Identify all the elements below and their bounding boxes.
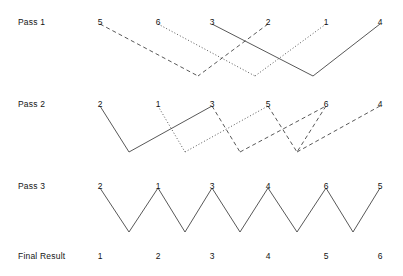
pass-3-value-5: 5: [373, 181, 387, 191]
pass-2-value-1: 1: [151, 99, 165, 109]
pass-1-value-5: 4: [373, 17, 387, 27]
pass-2-value-2: 3: [205, 99, 219, 109]
pass-2-seg-5-to-v4: [268, 106, 297, 152]
pass-2-seg-v4-to-4: [297, 106, 380, 152]
pass-1-seg-6-down: [158, 24, 255, 76]
diagram-canvas: Pass 1563214Pass 2213564Pass 3213465Fina…: [0, 0, 403, 276]
pass-2-seg-v2-to-5: [185, 106, 268, 152]
pass-1-seg-4-down: [313, 24, 380, 76]
pass-1-value-1: 6: [151, 17, 165, 27]
pass-3-seg-c-down: [212, 188, 240, 232]
pass-3-seg-c-up: [240, 188, 268, 232]
pass-3-value-3: 4: [261, 181, 275, 191]
pass-1-value-2: 3: [205, 17, 219, 27]
pass-1-seg-1-down: [255, 24, 326, 76]
row-label-pass-1: Pass 1: [18, 17, 45, 27]
final-result-value-2: 3: [205, 251, 219, 261]
row-label-pass-3: Pass 3: [18, 181, 45, 191]
pass-3-seg-a-down: [100, 188, 129, 232]
pass-1-value-3: 2: [261, 17, 275, 27]
final-result-value-4: 5: [319, 251, 333, 261]
pass-2-seg-6-to-v4b: [297, 106, 326, 152]
pass-2-seg-v1-to-3: [129, 106, 212, 152]
pass-2-value-4: 6: [319, 99, 333, 109]
pass-3-seg-e-up: [353, 188, 380, 232]
pass-2-value-0: 2: [93, 99, 107, 109]
pass-2-seg-3-to-v3: [212, 106, 240, 152]
wire-layer: [0, 0, 403, 276]
final-result-value-5: 6: [373, 251, 387, 261]
pass-1-seg-3-down: [212, 24, 313, 76]
pass-2-value-3: 5: [261, 99, 275, 109]
pass-3-seg-b-up: [185, 188, 212, 232]
pass-1-seg-2-down: [198, 24, 268, 76]
final-result-value-0: 1: [93, 251, 107, 261]
pass-2-seg-v3-to-6: [240, 106, 326, 152]
pass-3-seg-d-down: [268, 188, 297, 232]
pass-3-seg-e-down: [326, 188, 353, 232]
final-result-value-1: 2: [151, 251, 165, 261]
pass-2-value-5: 4: [373, 99, 387, 109]
pass-3-seg-d-up: [297, 188, 326, 232]
pass-1-seg-5-down: [100, 24, 198, 76]
pass-2-seg-2-to-v1: [100, 106, 129, 152]
pass-3-value-4: 6: [319, 181, 333, 191]
row-label-pass-2: Pass 2: [18, 99, 45, 109]
pass-2-seg-1-to-v2: [158, 106, 185, 152]
pass-3-seg-a-up: [129, 188, 158, 232]
pass-3-value-1: 1: [151, 181, 165, 191]
pass-1-value-0: 5: [93, 17, 107, 27]
pass-1-value-4: 1: [319, 17, 333, 27]
final-result-value-3: 4: [261, 251, 275, 261]
pass-3-value-2: 3: [205, 181, 219, 191]
pass-3-value-0: 2: [93, 181, 107, 191]
row-label-final-result: Final Result: [18, 251, 65, 261]
pass-3-seg-b-down: [158, 188, 185, 232]
